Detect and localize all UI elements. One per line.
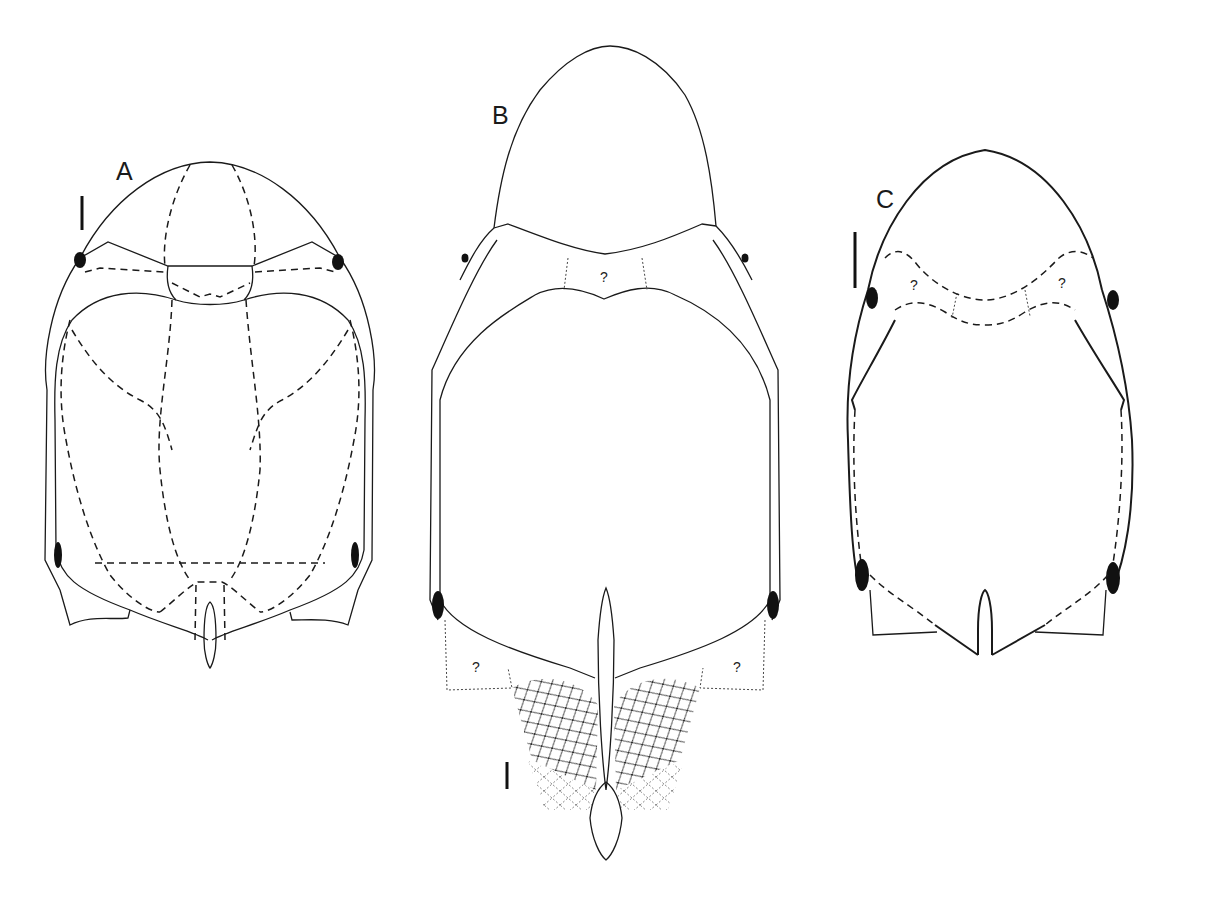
uncertain-mark-c-2: ? bbox=[1058, 275, 1066, 291]
uncertain-mark-c-1: ? bbox=[910, 277, 918, 293]
figure-three-dorsal-reconstructions: ? ? ? bbox=[0, 0, 1205, 900]
uncertain-mark-b-2: ? bbox=[472, 659, 480, 675]
panel-b-drawing: ? ? ? bbox=[430, 46, 780, 860]
panel-label-a: A bbox=[116, 159, 133, 184]
panel-label-b: B bbox=[492, 103, 509, 128]
panel-a-drawing bbox=[45, 162, 374, 668]
panel-c-drawing: ? ? bbox=[847, 150, 1132, 655]
uncertain-mark-b-3: ? bbox=[733, 659, 741, 675]
panel-label-c: C bbox=[876, 187, 894, 212]
uncertain-mark-b-1: ? bbox=[600, 269, 608, 285]
